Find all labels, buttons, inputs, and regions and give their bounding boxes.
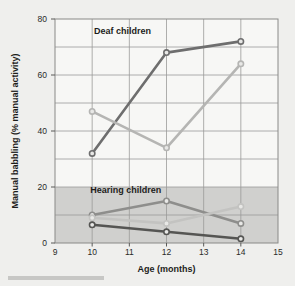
x-tick-label: 12 [162, 247, 172, 257]
plot-area [55, 19, 278, 243]
data-point-marker [164, 198, 169, 203]
x-axis-title: Age (months) [138, 264, 196, 274]
data-point-marker [238, 204, 243, 209]
data-point-marker [164, 229, 169, 234]
data-point-marker [164, 221, 169, 226]
data-point-marker [89, 215, 94, 220]
hearing-children-label: Hearing children [90, 185, 161, 195]
x-tick-label: 13 [199, 247, 209, 257]
data-point-marker [238, 39, 243, 44]
data-point-marker [89, 109, 94, 114]
y-tick-label: 40 [38, 126, 48, 136]
data-point-marker [238, 61, 243, 66]
data-point-marker [238, 221, 243, 226]
x-tick-label: 14 [236, 247, 246, 257]
data-point-marker [164, 145, 169, 150]
y-axis-title: Manual babbling (% manual activity) [10, 53, 20, 208]
data-point-marker [89, 151, 94, 156]
y-tick-label: 20 [38, 182, 48, 192]
deaf-children-label: Deaf children [94, 26, 151, 36]
x-tick-label: 15 [273, 247, 283, 257]
y-tick-label: 80 [38, 14, 48, 24]
data-point-marker [164, 50, 169, 55]
page-edge-artifact [8, 276, 104, 280]
y-tick-label: 60 [38, 70, 48, 80]
data-point-marker [89, 222, 94, 227]
y-tick-label: 0 [42, 238, 47, 248]
data-point-marker [238, 236, 243, 241]
x-tick-label: 11 [125, 247, 134, 257]
x-tick-label: 9 [53, 247, 58, 257]
x-tick-label: 10 [87, 247, 97, 257]
manual-babbling-line-chart: 9101112131415 020406080 Deaf childrenHea… [0, 0, 295, 286]
